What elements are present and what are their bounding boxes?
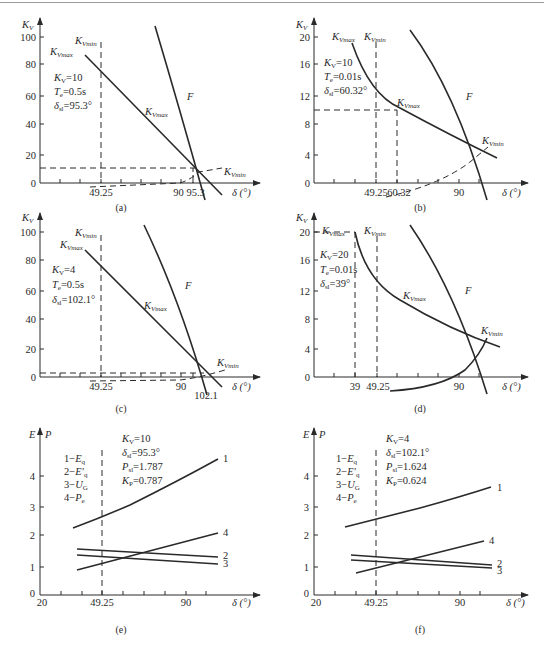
- svg-text:1: 1: [497, 482, 502, 493]
- svg-text:3: 3: [304, 502, 309, 513]
- svg-text:0: 0: [31, 178, 36, 189]
- svg-text:20: 20: [300, 32, 311, 43]
- svg-text:40: 40: [26, 314, 37, 325]
- svg-text:4: 4: [304, 471, 310, 482]
- svg-text:12: 12: [300, 91, 311, 102]
- label-kvmin-right: KVmin: [223, 166, 246, 179]
- svg-text:Te=0.5s: Te=0.5s: [54, 86, 86, 99]
- svg-text:20: 20: [26, 150, 37, 161]
- label-kvmax-left: KVmax: [49, 46, 74, 59]
- curve-numbers: 1 2 3 4: [489, 482, 502, 576]
- caption-b: (b): [414, 202, 426, 214]
- x-ticks: [335, 591, 480, 595]
- label-kvmax-left: KVmax: [59, 239, 84, 252]
- x-tick-90: 90: [455, 597, 466, 608]
- annotation-params: KV=4 Te=0.5s δsl=102.1°: [51, 264, 95, 307]
- svg-text:KV=10: KV=10: [53, 72, 83, 85]
- svg-text:KP=0.787: KP=0.787: [121, 475, 162, 488]
- annotation-params: KV=10 δsl=95.3° Psl=1.787 KP=0.787: [121, 433, 163, 488]
- curve-kvmax: [85, 55, 222, 195]
- svg-text:0: 0: [305, 372, 310, 383]
- curve-kvmax: [85, 250, 222, 387]
- svg-text:4: 4: [223, 527, 229, 538]
- x-axis-label: δ (°): [502, 187, 521, 199]
- svg-text:0: 0: [31, 372, 36, 383]
- svg-text:2: 2: [304, 530, 309, 541]
- svg-text:δsl=39°: δsl=39°: [320, 278, 350, 291]
- svg-text:KV=20: KV=20: [319, 249, 349, 262]
- svg-text:20: 20: [26, 344, 37, 355]
- label-kvmax-mid: KVmax: [144, 106, 169, 119]
- svg-text:3−UG: 3−UG: [64, 479, 88, 492]
- x-tick-49: 49.25: [89, 187, 113, 198]
- label-kvmax-left: KVmax: [321, 225, 346, 238]
- svg-text:16: 16: [300, 59, 311, 70]
- svg-text:Psl=1.787: Psl=1.787: [121, 461, 163, 474]
- x-tick-49: 49.25: [366, 381, 390, 392]
- x-axis-label: δ (°): [232, 381, 251, 393]
- panel-e: E P 4 3 2 1 0 20 49.25 90 δ (°) 1 2 3 4: [28, 428, 260, 636]
- svg-text:KV=10: KV=10: [323, 57, 353, 70]
- svg-text:3: 3: [497, 565, 502, 576]
- svg-text:Te=0.5s: Te=0.5s: [52, 279, 84, 292]
- svg-text:KV=10: KV=10: [121, 433, 151, 446]
- caption-f: (f): [415, 624, 425, 636]
- svg-text:δsl=102.1°: δsl=102.1°: [52, 294, 95, 307]
- curve-kvmin: [390, 338, 487, 391]
- svg-text:KP=0.624: KP=0.624: [385, 475, 427, 488]
- caption-a: (a): [115, 202, 126, 214]
- x-tick-49: 49.25: [364, 187, 388, 198]
- y-axis-label-p: P: [44, 429, 52, 440]
- svg-text:KV=4: KV=4: [385, 433, 410, 446]
- panel-c: KV 100 80 60 40 20 0 49.25 90 102.1 δ (°…: [20, 212, 260, 415]
- y-axis-label: KV: [295, 19, 308, 32]
- svg-text:0: 0: [30, 588, 35, 599]
- y-axis-label-e: E: [28, 429, 36, 440]
- svg-text:40: 40: [26, 119, 37, 130]
- label-f: F: [465, 91, 473, 102]
- label-f: F: [186, 91, 194, 102]
- svg-text:Te=0.01s: Te=0.01s: [324, 71, 361, 84]
- label-kvmin-right: KVmin: [481, 135, 504, 148]
- y-ticks: 4 3 2 1 0: [304, 471, 318, 599]
- y-ticks: 4 3 2 1 0: [30, 471, 44, 599]
- x-tick-20: 20: [311, 597, 322, 608]
- svg-text:4: 4: [305, 344, 311, 355]
- annotation-params: KV=10 Te=0.5s δsl=95.3°: [53, 72, 92, 113]
- svg-text:δsl=102.1°: δsl=102.1°: [386, 447, 429, 460]
- curve-f: [410, 225, 487, 394]
- curve-1: [345, 487, 491, 527]
- label-kvmax-mid: KVmax: [402, 290, 427, 303]
- svg-text:4−Pe: 4−Pe: [336, 492, 357, 505]
- caption-e: (e): [115, 624, 126, 636]
- caption-c: (c): [115, 403, 126, 415]
- x-ticks: [60, 373, 193, 377]
- svg-text:80: 80: [26, 255, 37, 266]
- label-f: F: [464, 285, 472, 296]
- x-tick-49: 49.25: [89, 381, 113, 392]
- svg-text:16: 16: [300, 255, 311, 266]
- svg-text:4: 4: [489, 535, 495, 546]
- label-kvmin-top: KVmin: [363, 225, 386, 238]
- svg-text:4−Pe: 4−Pe: [64, 492, 85, 505]
- svg-text:δsl=95.3°: δsl=95.3°: [54, 100, 92, 113]
- x-axis-label: δ (°): [232, 187, 251, 199]
- x-ticks: [60, 179, 193, 183]
- svg-text:1−Eq: 1−Eq: [336, 453, 358, 466]
- y-axis-label-p: P: [318, 429, 326, 440]
- label-kvmin-right: KVmin: [480, 325, 503, 338]
- svg-text:Psl=1.624: Psl=1.624: [385, 461, 427, 474]
- label-kvmin-top: KVmin: [74, 227, 97, 240]
- curve-4: [77, 533, 218, 570]
- annotation-params: KV=20 Te=0.01s δsl=39°: [319, 249, 357, 291]
- svg-text:100: 100: [20, 227, 36, 238]
- curve-kvmax: [352, 43, 497, 158]
- svg-text:KV=4: KV=4: [51, 264, 76, 277]
- x-axis-label: δ (°): [506, 597, 525, 609]
- svg-text:Te=0.01s: Te=0.01s: [320, 264, 357, 277]
- y-ticks: 20 16 12 8 4 0: [300, 227, 319, 383]
- svg-text:8: 8: [305, 314, 310, 325]
- x-tick-90: 90: [454, 381, 465, 392]
- caption-d: (d): [414, 403, 426, 415]
- annotation-params: KV=4 δsl=102.1° Psl=1.624 KP=0.624: [385, 433, 429, 488]
